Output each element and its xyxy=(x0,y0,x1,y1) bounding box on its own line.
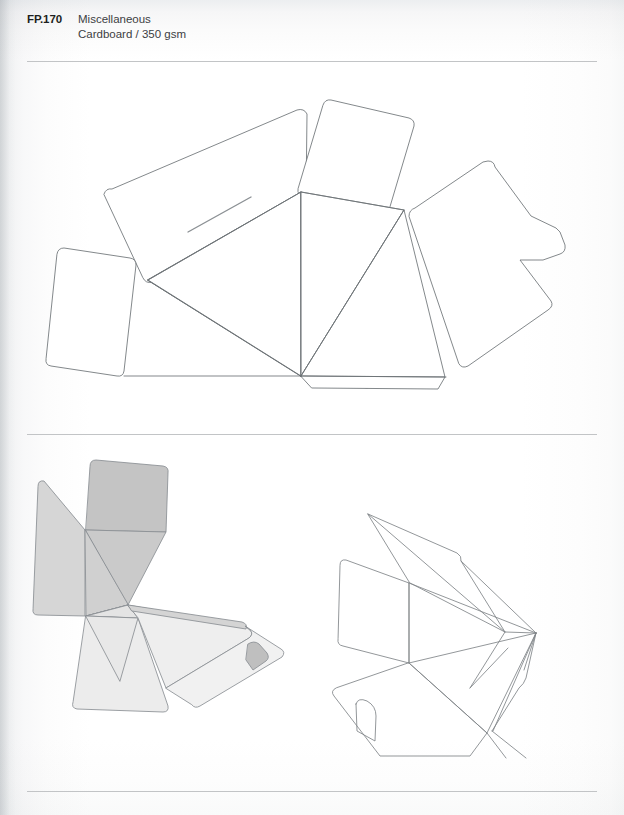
header-titles: Miscellaneous Cardboard / 350 gsm xyxy=(78,12,186,42)
render-panel-back-wall xyxy=(86,460,168,532)
wire-edge-right-vertex-d xyxy=(470,632,505,688)
material-label: Cardboard / 350 gsm xyxy=(78,27,186,42)
wire-edge-lower-right-a xyxy=(487,733,506,758)
wire-edge-lid-to-right xyxy=(505,632,536,633)
dieline-panel-bottom-glue-flap xyxy=(301,376,445,389)
wire-fold-bottom-diagonal xyxy=(409,663,487,733)
dieline-figure xyxy=(20,88,600,408)
wire-edge-apex-to-right xyxy=(409,583,536,633)
section-rule xyxy=(27,434,597,435)
wireframe-render-figure xyxy=(320,488,590,758)
category-label: Miscellaneous xyxy=(78,12,186,27)
wire-edge-right-vertex-c xyxy=(524,633,536,670)
dieline-panel-left-square-flap xyxy=(46,248,136,376)
wire-edge-lower-right-b xyxy=(492,731,526,758)
wire-tab-slot xyxy=(356,700,376,741)
wire-panel-back-left xyxy=(338,560,409,663)
page-sheet: FP.170 Miscellaneous Cardboard / 350 gsm xyxy=(0,0,624,815)
wire-edge-apex-lower-right xyxy=(409,633,536,663)
wire-fold-lid-diagonal xyxy=(368,514,505,632)
footer-rule xyxy=(27,791,597,792)
wire-edge-right-vertex-b xyxy=(493,633,536,731)
render-panel-left-wall xyxy=(33,481,85,616)
wire-edge-right-vertex-a xyxy=(487,633,536,733)
reference-code: FP.170 xyxy=(27,12,78,27)
page-header: FP.170 Miscellaneous Cardboard / 350 gsm xyxy=(27,12,186,42)
header-rule xyxy=(27,61,597,62)
wire-panel-bottom xyxy=(332,663,487,756)
shaded-render-figure xyxy=(20,448,310,738)
wire-edge-cross-lower xyxy=(470,648,508,688)
